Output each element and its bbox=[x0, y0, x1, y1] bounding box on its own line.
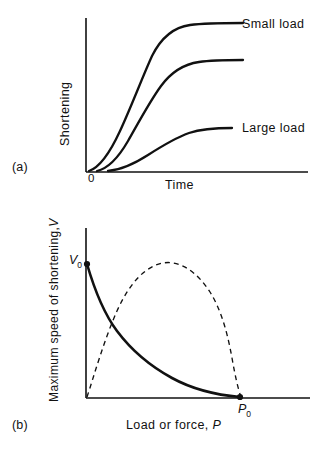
annotation-p0-subscript: 0 bbox=[246, 409, 251, 419]
curve-label-large-load: Large load bbox=[242, 121, 305, 135]
panel-a-y-axis-label: Shortening bbox=[58, 82, 72, 146]
panel-label-b: (b) bbox=[12, 418, 28, 432]
curve-force-velocity-solid bbox=[87, 264, 240, 397]
panel-a-curves bbox=[89, 23, 243, 171]
panel-b-x-axis-label: Load or force, P bbox=[126, 418, 221, 432]
panel-a-axes bbox=[86, 18, 308, 172]
panel-a-origin-label: 0 bbox=[88, 172, 95, 184]
panel-label-a: (a) bbox=[12, 160, 28, 174]
panel-b-y-axis-label: Maximum speed of shortening,V bbox=[47, 218, 61, 402]
panel-a-x-axis-label: Time bbox=[165, 178, 194, 192]
panel-b-y-axis-text: Maximum speed of shortening, bbox=[47, 227, 61, 402]
panel-b-x-axis-text: Load or force, bbox=[126, 418, 209, 432]
curve-label-small-load: Small load bbox=[242, 17, 304, 31]
figure-container: (a) (b) Shortening Time 0 Small load Lar… bbox=[0, 0, 321, 449]
marker-v0-dot bbox=[84, 261, 90, 267]
annotation-p0: P0 bbox=[238, 402, 251, 419]
marker-p0-dot bbox=[237, 394, 243, 400]
panel-b-x-axis-symbol: P bbox=[213, 418, 222, 432]
curve-power-output-dashed bbox=[87, 263, 241, 397]
panel-b-axes bbox=[86, 228, 310, 398]
annotation-v0-subscript: 0 bbox=[77, 260, 82, 270]
curve-large-load bbox=[108, 128, 232, 171]
panel-b-y-axis-symbol: V bbox=[47, 218, 61, 226]
curve-medium-load bbox=[97, 60, 243, 171]
annotation-v0: V0 bbox=[69, 253, 82, 270]
curve-small-load bbox=[89, 23, 243, 171]
